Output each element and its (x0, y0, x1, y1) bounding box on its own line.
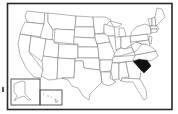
state-hawaii (43, 94, 58, 103)
us-map (0, 0, 178, 114)
state-colorado (58, 44, 78, 59)
state-maine (155, 8, 165, 26)
state-alaska (14, 81, 31, 101)
state-washington (25, 11, 45, 24)
state-montana (48, 13, 76, 30)
state-kansas (78, 47, 99, 58)
state-south-dakota (74, 27, 95, 38)
state-new-york (131, 24, 151, 36)
state-new-jersey (149, 36, 152, 44)
state-arizona (41, 56, 58, 80)
alaska-inset (11, 79, 40, 105)
hawaii-inset (40, 90, 62, 105)
state-ohio (121, 36, 131, 49)
state-mississippi (111, 63, 119, 80)
state-indiana (115, 37, 121, 50)
state-north-dakota (75, 16, 94, 27)
state-new-mexico (57, 58, 75, 79)
state-wyoming (54, 29, 75, 44)
state-connecticut-rhode-island (151, 29, 157, 33)
state-vermont (148, 18, 152, 26)
state-massachusetts (150, 26, 159, 29)
state-florida (121, 78, 147, 100)
